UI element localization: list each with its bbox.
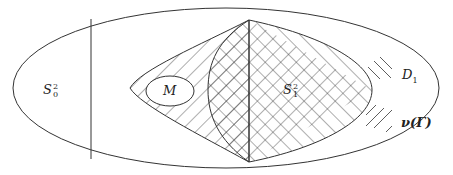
label-s0: S20 <box>43 83 58 98</box>
label-m: M <box>163 84 176 97</box>
s1-sub: 1 <box>293 91 298 98</box>
s1-base: S <box>283 82 292 97</box>
legend-d1-label: D1 <box>402 68 418 85</box>
label-s1: S21 <box>283 83 298 98</box>
s0-sub: 0 <box>53 91 58 98</box>
legend-nu-label: ν(Γ) <box>401 116 432 129</box>
s0-base: S <box>43 82 52 97</box>
legend-d1-swatch <box>368 57 392 79</box>
diagram-canvas <box>0 0 453 175</box>
d1-sub: 1 <box>412 76 417 85</box>
d1-base: D <box>402 67 412 82</box>
legend-nu-swatch <box>366 105 392 132</box>
